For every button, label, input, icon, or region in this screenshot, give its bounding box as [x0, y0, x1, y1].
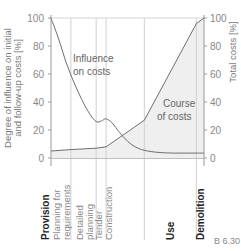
tick-label: 40	[33, 97, 45, 108]
phase-label: Provision	[40, 194, 51, 240]
figure-label: B 6.30	[214, 236, 240, 246]
tick-label: 40	[210, 97, 222, 108]
phase-label: requirements	[61, 184, 72, 240]
left-axis-title-line2: and follow-up costs [%]	[12, 39, 23, 137]
tick-label: 60	[33, 69, 45, 80]
course-of-costs-area	[51, 18, 204, 158]
tick-label: 0	[210, 153, 216, 164]
tick-label: 80	[210, 41, 222, 52]
tick-label: 0	[38, 153, 44, 164]
influence-annotation-line1: Influence	[73, 53, 114, 64]
chart: 020406080100 020406080100 Influence on c…	[0, 0, 241, 251]
influence-annotation-line2: on costs	[73, 66, 110, 77]
tick-label: 100	[210, 13, 227, 24]
costs-annotation-line1: Course	[163, 98, 196, 109]
tick-label: 100	[27, 13, 44, 24]
right-axis-title: Total costs [%]	[227, 21, 238, 82]
phase-label: Construction	[103, 187, 114, 240]
tick-label: 20	[210, 125, 222, 136]
phase-label: Use	[165, 221, 176, 240]
tick-label: 60	[210, 69, 222, 80]
phase-label: Demolition	[195, 188, 206, 240]
left-axis-ticks: 020406080100	[27, 13, 51, 164]
right-axis-ticks: 020406080100	[204, 13, 227, 164]
tick-label: 80	[33, 41, 45, 52]
phase-labels: ProvisionPlanning forrequirementsDetaile…	[40, 184, 206, 240]
costs-annotation-line2: of costs	[157, 111, 191, 122]
tick-label: 20	[33, 125, 45, 136]
